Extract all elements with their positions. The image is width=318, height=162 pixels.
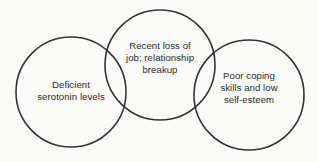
circle-recent-loss-of-job-relationship-breakup xyxy=(105,10,215,120)
circle-deficient-serotonin-levels xyxy=(16,37,126,147)
venn-circles-canvas xyxy=(0,0,318,162)
venn-diagram: Deficient serotonin levels Recent loss o… xyxy=(0,0,318,162)
circle-poor-coping-skills-low-self-esteem xyxy=(194,40,304,150)
